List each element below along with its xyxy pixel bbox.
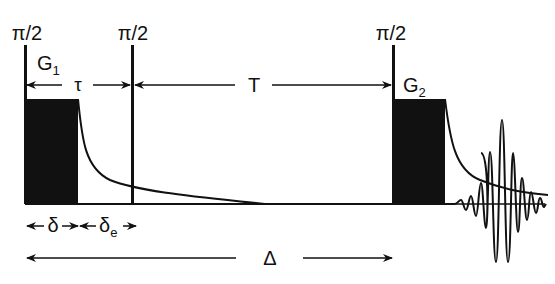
gradient-1-block xyxy=(25,99,78,204)
pulse-1-label: π/2 xyxy=(12,22,42,44)
delta-e-label: δe xyxy=(99,214,117,240)
gradient-2-decay-curve xyxy=(445,99,548,195)
gradient-1-subscript: 1 xyxy=(53,63,60,78)
T-label: T xyxy=(248,74,260,96)
gradient-2-block xyxy=(393,99,445,204)
delta-e-subscript: e xyxy=(110,225,117,240)
gradient-1-decay-curve xyxy=(78,99,265,204)
delta-label: δ xyxy=(47,214,58,236)
pulse-sequence-diagram: π/2 π/2 π/2 G1 G2 τ T δ δe Δ xyxy=(0,0,555,284)
tau-label: τ xyxy=(74,74,82,95)
stimulated-echo-signal xyxy=(455,120,546,262)
Delta-label: Δ xyxy=(263,247,276,269)
gradient-1-label: G1 xyxy=(37,52,60,78)
gradient-2-subscript: 2 xyxy=(419,85,426,100)
pulse-3-label: π/2 xyxy=(376,22,406,44)
gradient-2-label: G2 xyxy=(403,74,426,100)
pulse-2-label: π/2 xyxy=(118,22,148,44)
